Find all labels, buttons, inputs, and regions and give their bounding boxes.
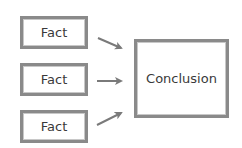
fact-box-1: Fact <box>20 16 88 49</box>
fact-box-3: Fact <box>20 110 88 143</box>
fact-label-1: Fact <box>41 25 68 40</box>
conclusion-box: Conclusion <box>134 39 229 118</box>
conclusion-label: Conclusion <box>146 71 217 86</box>
arrow-icon-3 <box>97 113 121 125</box>
arrow-icon-1 <box>98 38 121 48</box>
fact-label-2: Fact <box>41 72 68 87</box>
fact-box-2: Fact <box>20 63 88 96</box>
fact-label-3: Fact <box>41 119 68 134</box>
